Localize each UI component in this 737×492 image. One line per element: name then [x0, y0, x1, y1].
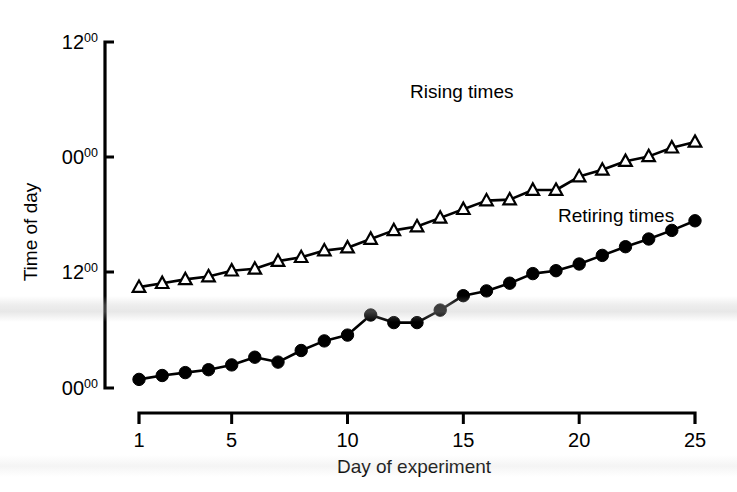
data-point-marker	[272, 356, 284, 368]
data-point-marker	[226, 359, 238, 371]
data-point-marker	[573, 258, 585, 270]
x-axis-tick-label: 1	[133, 429, 144, 451]
data-point-marker	[689, 135, 702, 146]
data-point-marker	[619, 241, 631, 253]
data-point-marker	[550, 265, 562, 277]
data-point-marker	[480, 285, 492, 297]
data-point-marker	[411, 316, 423, 328]
chart-figure: 1200 0000 1200 0000 Time of day 15101520…	[0, 0, 737, 492]
data-point-marker	[388, 316, 400, 328]
data-point-marker	[642, 150, 655, 161]
x-axis-tick-labels: 1510152025	[133, 429, 706, 451]
ytick-label-2: 00	[62, 146, 84, 168]
data-point-marker	[364, 232, 377, 243]
ytick-label-0: 00	[62, 377, 84, 399]
data-point-marker	[689, 215, 701, 227]
x-axis-title: Day of experiment	[337, 456, 492, 477]
svg-text:1200: 1200	[62, 261, 98, 283]
line-chart-svg: 1200 0000 1200 0000 Time of day 15101520…	[0, 0, 737, 492]
ytick-sup-0: 00	[84, 377, 98, 391]
ytick-label-1: 12	[62, 261, 84, 283]
series-polyline	[139, 221, 695, 380]
y-axis-tick-labels: 1200 0000 1200 0000	[62, 31, 98, 399]
data-point-marker	[295, 344, 307, 356]
x-axis-tick-label: 10	[336, 429, 358, 451]
data-point-marker	[643, 233, 655, 245]
x-axis-tick-label: 5	[226, 429, 237, 451]
data-point-marker	[434, 211, 447, 222]
data-point-marker	[249, 351, 261, 363]
data-point-marker	[434, 304, 446, 316]
data-point-marker	[133, 373, 145, 385]
data-point-marker	[202, 364, 214, 376]
data-point-marker	[295, 251, 308, 262]
ytick-sup-3: 00	[84, 31, 98, 45]
svg-text:1200: 1200	[62, 31, 98, 53]
data-point-marker	[318, 335, 330, 347]
x-axis-line	[139, 413, 695, 424]
data-point-marker	[179, 366, 191, 378]
data-point-marker	[156, 277, 169, 288]
x-axis-tick-label: 15	[452, 429, 474, 451]
data-point-marker	[504, 277, 516, 289]
series-retiring-times-markers	[133, 215, 701, 386]
x-axis-tick-label: 20	[568, 429, 590, 451]
data-point-marker	[457, 290, 469, 302]
svg-text:0000: 0000	[62, 146, 98, 168]
data-point-marker	[156, 369, 168, 381]
data-point-marker	[225, 264, 238, 275]
data-point-marker	[596, 249, 608, 261]
x-axis-tick-label: 25	[684, 429, 706, 451]
ytick-sup-2: 00	[84, 146, 98, 160]
data-point-marker	[666, 224, 678, 236]
ytick-label-3: 12	[62, 31, 84, 53]
series-retiring-times-line	[139, 221, 695, 380]
series-label-rising-times: Rising times	[410, 81, 513, 102]
data-point-marker	[341, 329, 353, 341]
x-axis-ticks	[232, 413, 580, 424]
y-axis-title: Time of day	[20, 182, 41, 281]
ytick-sup-1: 00	[84, 261, 98, 275]
y-axis-line	[105, 42, 114, 388]
series-label-retiring-times: Retiring times	[558, 205, 674, 226]
data-point-marker	[527, 267, 539, 279]
svg-text:0000: 0000	[62, 377, 98, 399]
data-point-marker	[365, 309, 377, 321]
data-point-marker	[573, 170, 586, 181]
